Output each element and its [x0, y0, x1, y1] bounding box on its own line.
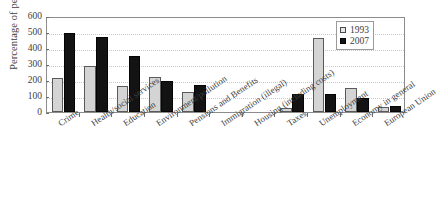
y-axis-tick-label: 100	[12, 92, 42, 102]
legend-item: 1993	[340, 24, 369, 35]
x-axis-tick-mark	[372, 113, 373, 117]
y-axis-tick-label: 500	[12, 28, 42, 38]
y-axis-tick-mark	[46, 17, 49, 18]
bar	[52, 78, 64, 112]
legend-item: 2007	[340, 35, 369, 46]
y-axis-tick-mark	[46, 65, 49, 66]
y-axis-tick-mark	[46, 33, 49, 34]
x-axis-tick-mark	[144, 113, 145, 117]
y-axis-tick-label: 400	[12, 44, 42, 54]
x-axis-tick-mark	[209, 113, 210, 117]
y-axis-tick-labels: 0100200300400500600	[10, 17, 42, 113]
x-axis-tick-mark	[340, 113, 341, 117]
y-axis-tick-mark	[46, 81, 49, 82]
y-axis-tick-label: 300	[12, 60, 42, 70]
y-axis-tick-label: 0	[12, 108, 42, 118]
y-axis-tick-label: 200	[12, 76, 42, 86]
x-axis-tick-mark	[242, 113, 243, 117]
y-axis-tick-mark	[46, 97, 49, 98]
x-axis-tick-mark	[79, 113, 80, 117]
bar	[96, 37, 108, 112]
x-axis-tick-mark	[111, 113, 112, 117]
x-axis-tick-mark	[177, 113, 178, 117]
light-square-swatch	[340, 27, 346, 33]
bar	[84, 66, 96, 112]
x-axis-tick-mark	[274, 113, 275, 117]
y-axis-tick-mark	[46, 49, 49, 50]
y-axis-tick-mark	[46, 113, 49, 114]
dark-square-swatch	[340, 38, 346, 44]
y-axis-tick-label: 600	[12, 12, 42, 22]
bar	[64, 33, 76, 112]
x-axis-tick-mark	[307, 113, 308, 117]
chart-legend: 1993 2007	[336, 21, 374, 50]
legend-label: 2007	[350, 36, 369, 46]
legend-label: 1993	[350, 25, 369, 35]
